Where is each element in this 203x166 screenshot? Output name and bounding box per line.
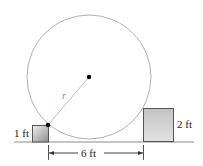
radius-line (48, 77, 89, 125)
radius-label: r (62, 90, 66, 101)
left-box-height-label: 1 ft (14, 127, 29, 139)
circle-between-boxes-diagram: r 1 ft 2 ft 6 ft (0, 0, 203, 166)
right-box (144, 109, 174, 142)
center-point (87, 75, 91, 79)
gap-distance-label: 6 ft (81, 147, 96, 159)
left-box (33, 126, 49, 143)
right-box-height-label: 2 ft (177, 118, 192, 130)
arrowhead-right-icon (138, 151, 143, 155)
arrowhead-left-icon (49, 151, 54, 155)
tangent-point (46, 123, 50, 127)
